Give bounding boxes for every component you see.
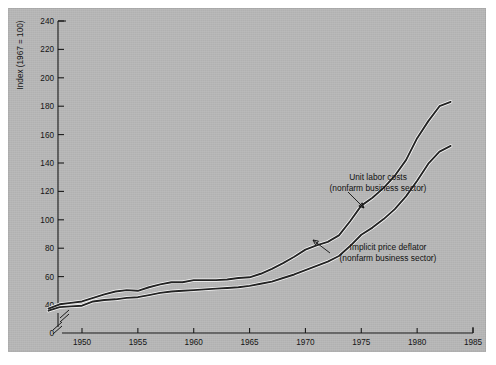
x-tick-label: 1985 (464, 338, 483, 347)
y-tick-label: 160 (40, 131, 54, 140)
y-tick-label: 80 (45, 244, 55, 253)
x-tick-label: 1950 (73, 338, 92, 347)
x-tick-label: 1970 (296, 338, 315, 347)
series-line (48, 102, 450, 309)
data-series-group (48, 102, 450, 311)
x-tick-label: 1965 (240, 338, 259, 347)
y-tick-label: 120 (40, 187, 54, 196)
chart-figure: 4060801001201401601802002202400 19501955… (0, 0, 496, 365)
x-tick-label: 1960 (185, 338, 204, 347)
annotation-arrow-unit-labor-costs (348, 192, 364, 208)
annotation-sublabel-unit-labor-costs: (nonfarm business sector) (330, 183, 427, 193)
series-line (48, 146, 450, 311)
annotation-label-implicit-price-deflator: Implicit price deflator (350, 242, 427, 252)
y-tick-label: 200 (40, 74, 54, 83)
x-axis: 19501955196019651970197519801985 (62, 327, 483, 347)
x-tick-label: 1980 (408, 338, 427, 347)
axis-break-mark (53, 310, 69, 334)
x-tick-label: 1955 (129, 338, 148, 347)
y-tick-label: 180 (40, 102, 54, 111)
y-tick-label: 220 (40, 45, 54, 54)
line-chart-plot: 4060801001201401601802002202400 19501955… (0, 0, 496, 365)
y-tick-label: 240 (40, 17, 54, 26)
annotation-label-unit-labor-costs: Unit labor costs (349, 172, 407, 182)
y-tick-label: 100 (40, 216, 54, 225)
y-axis: 4060801001201401601802002202400 (40, 17, 66, 338)
annotations-group: Unit labor costs(nonfarm business sector… (313, 172, 437, 263)
annotation-sublabel-implicit-price-deflator: (nonfarm business sector) (340, 253, 437, 263)
x-tick-label: 1975 (352, 338, 371, 347)
y-axis-title: Index (1967 = 100) (16, 20, 25, 89)
y-tick-label: 60 (45, 273, 55, 282)
y-tick-label: 140 (40, 159, 54, 168)
